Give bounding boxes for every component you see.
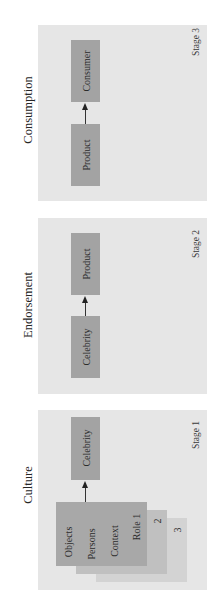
role-card-3-label: 3 (172, 528, 183, 533)
stage3-title: Consumption (21, 76, 36, 143)
stage3-panel (38, 25, 207, 201)
stage2-panel (38, 218, 207, 394)
role-card-item-role1: Role 1 (131, 514, 142, 540)
stage2-arrow-line (85, 301, 86, 316)
stage1-arrowhead-icon (82, 481, 88, 488)
stage3-label: Stage 3 (191, 28, 201, 56)
role-card-item-context: Context (109, 525, 120, 557)
role-card-2-label: 2 (152, 519, 163, 524)
stage2-celebrity-label: Celebrity (80, 328, 91, 365)
stage1-title: Culture (21, 466, 36, 504)
stage3-arrowhead-icon (82, 103, 88, 110)
stage3-consumer-label: Consumer (80, 50, 91, 91)
stage3-product-label: Product (80, 139, 91, 170)
stage1-celebrity-label: Celebrity (80, 429, 91, 466)
stage1-arrow-line (85, 486, 86, 502)
stage2-label: Stage 2 (191, 230, 201, 258)
stage2-product-label: Product (80, 248, 91, 279)
role-card-item-persons: Persons (86, 528, 97, 559)
role-card-item-objects: Objects (63, 527, 74, 558)
stage2-title: Endorsement (21, 272, 36, 338)
stage2-arrowhead-icon (82, 296, 88, 303)
stage1-label: Stage 1 (191, 421, 201, 449)
stage3-arrow-line (85, 108, 86, 124)
